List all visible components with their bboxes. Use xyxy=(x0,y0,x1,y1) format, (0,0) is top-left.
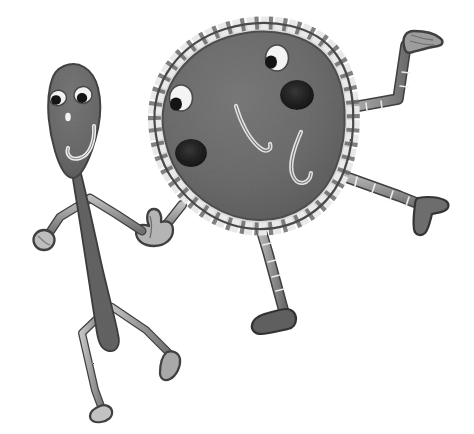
round-figure-right-blush xyxy=(280,80,314,110)
round-figure-right-eye xyxy=(265,45,289,71)
round-figure-left-blush xyxy=(175,139,207,167)
round-figure-left-eye xyxy=(170,85,193,111)
scene-svg xyxy=(0,0,474,434)
illustration-canvas: A tall thin teardrop-headed stick figure… xyxy=(0,0,474,434)
round-figure-body xyxy=(154,23,353,229)
thin-figure-nose xyxy=(65,113,71,121)
thin-figure-left-hand xyxy=(34,230,55,250)
